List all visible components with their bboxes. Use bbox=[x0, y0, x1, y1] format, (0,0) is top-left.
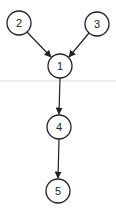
node-2: 2 bbox=[7, 11, 31, 35]
edge-4-to-5 bbox=[58, 139, 59, 178]
edge-2-to-1 bbox=[27, 32, 51, 57]
node-3: 3 bbox=[85, 12, 109, 36]
node-4: 4 bbox=[47, 115, 71, 139]
node-1: 1 bbox=[48, 54, 72, 78]
node-label: 5 bbox=[55, 185, 61, 197]
edge-1-to-4 bbox=[59, 78, 60, 114]
graph-canvas: 2 3 1 4 5 bbox=[0, 0, 116, 215]
node-label: 1 bbox=[57, 60, 63, 72]
node-5: 5 bbox=[46, 179, 70, 203]
edge-3-to-1 bbox=[69, 33, 89, 57]
node-label: 3 bbox=[94, 18, 100, 30]
node-label: 4 bbox=[56, 121, 62, 133]
node-label: 2 bbox=[16, 17, 22, 29]
